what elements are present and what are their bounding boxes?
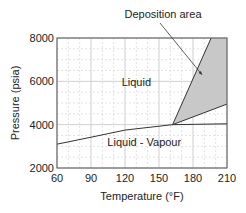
y-tick-label: 4000 xyxy=(30,119,54,131)
annotations: Deposition area xyxy=(124,8,202,75)
region-label: Liquid - Vapour xyxy=(107,136,181,148)
x-tick-label: 210 xyxy=(218,172,236,184)
y-tick-label: 8000 xyxy=(30,32,54,44)
x-tick-labels: 6090120150180210 xyxy=(51,172,236,184)
chart: 6090120150180210 2000400060008000 Temper… xyxy=(0,0,246,213)
x-tick-label: 90 xyxy=(85,172,97,184)
region-label: Liquid xyxy=(122,76,151,88)
y-tick-labels: 2000400060008000 xyxy=(30,32,54,174)
x-tick-label: 180 xyxy=(184,172,202,184)
y-tick-label: 6000 xyxy=(30,75,54,87)
x-tick-label: 150 xyxy=(150,172,168,184)
x-tick-label: 120 xyxy=(116,172,134,184)
y-tick-label: 2000 xyxy=(30,162,54,174)
annotation-label: Deposition area xyxy=(124,8,202,20)
x-axis-label: Temperature (°F) xyxy=(100,190,183,202)
y-axis-label: Pressure (psia) xyxy=(9,66,21,141)
